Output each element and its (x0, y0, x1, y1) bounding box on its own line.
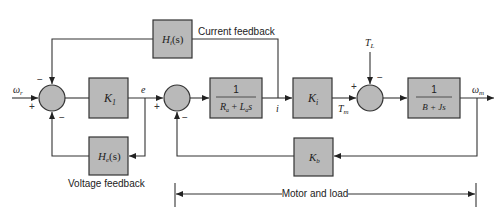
block-hi: Hi(s) (153, 20, 192, 58)
sum1-sign-left: + (29, 101, 35, 112)
omega-m-label: ωm (472, 84, 484, 97)
block-kb: Kb (294, 138, 333, 176)
svg-text:B + Js: B + Js (422, 102, 446, 112)
current-feedback-label: Current feedback (198, 26, 276, 37)
block-he: He(s) (89, 137, 128, 175)
sum3-sign-top: − (377, 72, 383, 83)
block-diagram: ωr − + − K1 e He(s) Voltage feedback + −… (0, 0, 502, 217)
error-signal-label: e (141, 84, 146, 95)
sum3-sign-left: + (351, 81, 357, 92)
block-mechanical: 1 B + Js (408, 78, 460, 118)
svg-text:Hi(s): Hi(s) (161, 33, 184, 47)
motor-and-load-label: Motor and load (282, 188, 349, 199)
sum1-sign-bottom: − (59, 112, 65, 123)
omega-r-label: ω (13, 84, 20, 95)
summing-junction-2 (164, 85, 190, 111)
svg-text:1: 1 (431, 84, 437, 95)
load-torque-label: TL (365, 37, 375, 50)
svg-text:1: 1 (233, 84, 239, 95)
svg-text:He(s): He(s) (97, 150, 121, 164)
current-signal-label: i (276, 103, 279, 114)
block-k1: K1 (89, 78, 128, 118)
block-armature: 1 Ra + Las (210, 78, 262, 118)
block-ki: Ki (293, 78, 332, 118)
sum2-sign-bottom: − (182, 112, 188, 123)
sum1-sign-top: − (37, 74, 43, 85)
input-reference-speed: ωr (12, 84, 38, 98)
sum2-sign-left: + (154, 101, 160, 112)
svg-text:ωr: ωr (13, 84, 23, 97)
motor-torque-label: Tm (338, 103, 349, 116)
motor-and-load-span: Motor and load (175, 183, 476, 207)
summing-junction-3 (357, 85, 383, 111)
voltage-feedback-label: Voltage feedback (68, 178, 146, 189)
summing-junction-1 (39, 85, 65, 111)
